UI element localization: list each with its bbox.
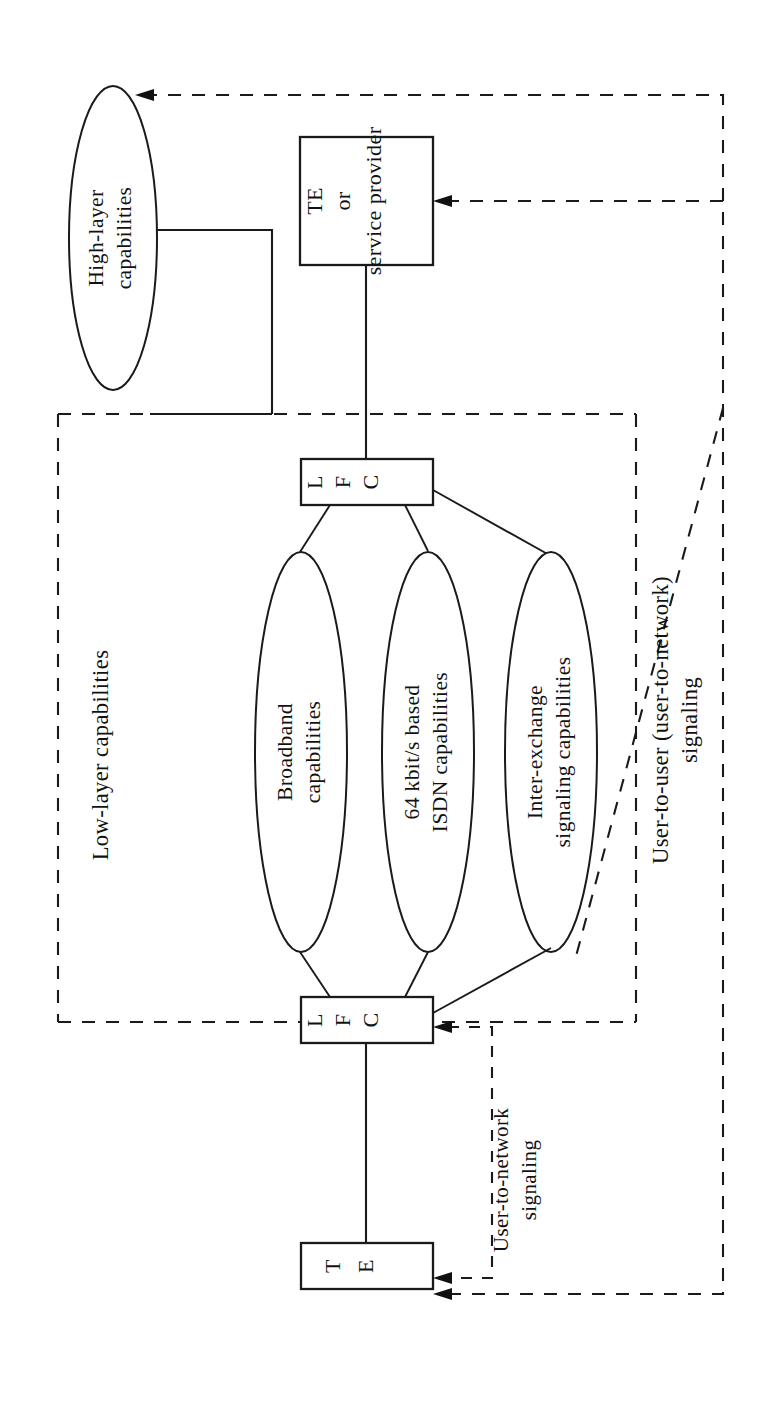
user-to-user-arrow-into-te — [433, 1288, 452, 1300]
lfc-top-letter-f: F — [330, 476, 355, 489]
high-layer-capabilities-label-line2: capabilities — [112, 187, 136, 290]
isdn-64kbit-capabilities-label-line1: 64 kbit/s based — [400, 685, 424, 820]
high-layer-to-region-link — [157, 230, 272, 414]
user-to-user-arrow-into-high-layer — [135, 89, 154, 101]
lfc-bottom-node: L F C — [301, 997, 433, 1043]
user-to-user-signaling-label: User-to-user (user-to-network) signaling — [648, 576, 702, 864]
isdn-64kbit-capabilities-label-line2: ISDN capabilities — [428, 672, 452, 832]
broadband-capabilities-label-line1: Broadband — [273, 703, 297, 801]
interexchange-to-lfc-bottom-link — [433, 948, 551, 1013]
broadband-to-lfc-bottom-link — [300, 952, 330, 997]
te-or-service-provider-label-line3: service provider — [361, 126, 386, 275]
inter-exchange-signaling-node: Inter-exchange signaling capabilities — [505, 552, 597, 952]
user-to-network-dashed-path — [448, 1027, 492, 1278]
lfc-top-letter-l: L — [302, 475, 327, 489]
lfc-top-letter-c: C — [358, 474, 383, 489]
low-layer-region-solid-joins — [150, 404, 272, 424]
lfc-top-to-isdn64k-link — [405, 505, 428, 551]
telecom-capabilities-diagram: High-layer capabilities TE or service pr… — [0, 0, 776, 1402]
low-layer-capabilities-label-text: Low-layer capabilities — [88, 650, 113, 861]
high-layer-capabilities-node: High-layer capabilities — [69, 86, 157, 390]
lfc-bottom-letter-f: F — [330, 1014, 355, 1027]
user-to-network-label-line2: signaling — [517, 1140, 541, 1221]
isdn-64kbit-capabilities-node: 64 kbit/s based ISDN capabilities — [382, 552, 474, 952]
te-bottom-letter-e: E — [353, 1259, 378, 1273]
high-layer-capabilities-label-line1: High-layer — [84, 189, 108, 286]
lfc-bottom-letter-l: L — [302, 1013, 327, 1027]
lfc-bottom-letter-c: C — [358, 1012, 383, 1027]
user-to-network-arrow-into-te — [433, 1272, 452, 1284]
te-bottom-letter-t: T — [320, 1259, 345, 1273]
user-to-network-signaling-connector — [433, 1021, 492, 1284]
user-to-user-label-line2: signaling — [677, 677, 702, 763]
user-to-user-arrow-into-service-provider — [433, 195, 452, 207]
te-bottom-node: T E — [301, 1243, 433, 1289]
inter-exchange-signaling-label-line1: Inter-exchange — [523, 685, 547, 819]
low-layer-capabilities-label: Low-layer capabilities — [88, 650, 113, 861]
broadband-capabilities-node: Broadband capabilities — [255, 552, 347, 952]
user-to-network-signaling-label: User-to-network signaling — [489, 1108, 541, 1252]
broadband-capabilities-label-line2: capabilities — [301, 701, 325, 804]
lfc-top-to-broadband-link — [300, 505, 330, 552]
diagram-canvas: High-layer capabilities TE or service pr… — [0, 0, 776, 1402]
te-or-service-provider-label-line1: TE — [302, 187, 327, 215]
inter-exchange-signaling-label-line2: signaling capabilities — [551, 657, 575, 848]
te-or-service-provider-label-line2: or — [330, 191, 355, 210]
user-to-user-label-line1: User-to-user (user-to-network) — [648, 576, 673, 864]
high-layer-connector — [157, 230, 272, 414]
te-or-service-provider-node: TE or service provider — [300, 126, 433, 275]
isdn64k-to-lfc-bottom-link — [405, 952, 428, 997]
lfc-top-node: L F C — [301, 459, 433, 505]
user-to-network-label-line1: User-to-network — [489, 1108, 513, 1252]
lfc-top-to-interexchange-link — [433, 490, 551, 556]
